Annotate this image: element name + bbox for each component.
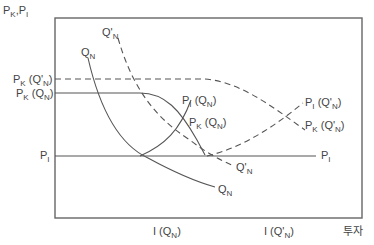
- label-qn-prime-top: Q'N: [102, 26, 119, 41]
- label-pk-qn-left: PK (QN): [16, 87, 53, 102]
- label-qn-prime-bottom: Q'N: [236, 161, 253, 176]
- x-tick-i-qn-prime: I (Q'N): [264, 225, 294, 240]
- label-pi-qn: PI (QN): [182, 94, 216, 109]
- label-pk-qn: PK (QN): [189, 116, 226, 131]
- label-pi-left: PI: [40, 149, 50, 164]
- label-pi-qn-prime: PI (Q'N): [305, 96, 341, 111]
- diagram-canvas: PK,PI PK (Q'N) PK (QN) PI QN Q'N PI (QN)…: [0, 0, 374, 245]
- label-pk-qn-prime-left: PK (Q'N): [13, 73, 53, 88]
- investment-price-diagram: PK,PI PK (Q'N) PK (QN) PI QN Q'N PI (QN)…: [0, 0, 374, 245]
- label-pi-right: PI: [321, 149, 331, 164]
- pi-qn-curve: [140, 100, 191, 156]
- label-pk-qn-prime: PK (Q'N): [305, 119, 345, 134]
- label-qn-bottom: QN: [218, 183, 233, 198]
- x-tick-i-qn: I (QN): [153, 225, 181, 240]
- x-axis-label: 투자: [343, 225, 363, 237]
- y-axis-label: PK,PI: [3, 4, 28, 19]
